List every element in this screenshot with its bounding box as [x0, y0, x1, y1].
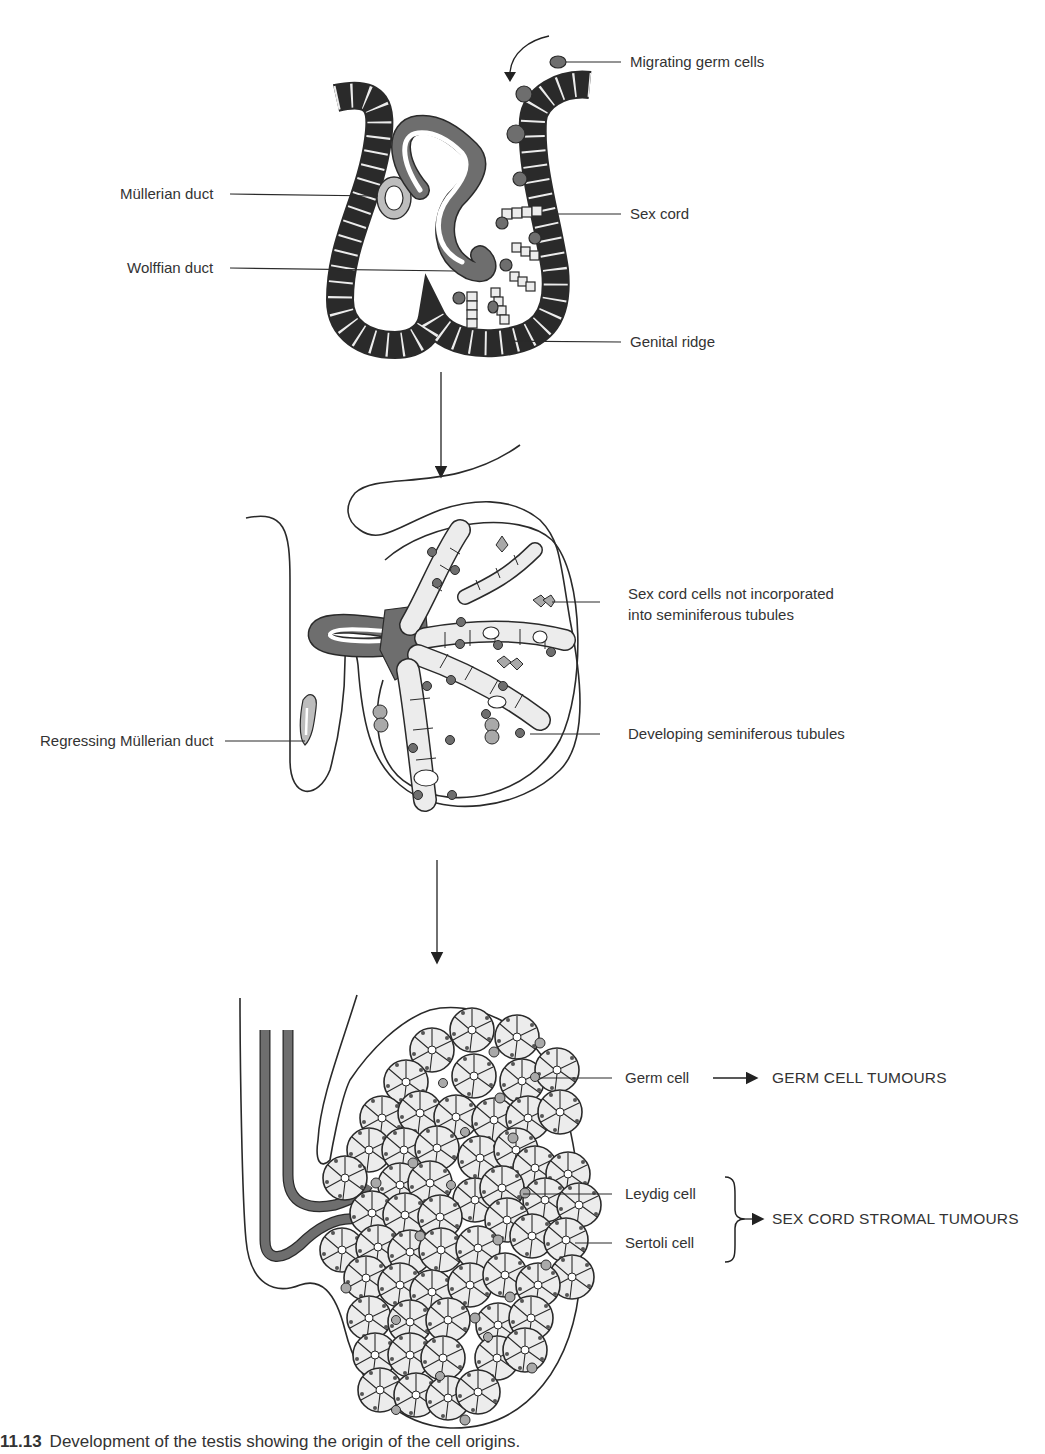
- label-mullerian-duct: Müllerian duct: [120, 185, 213, 203]
- label-migrating-germ-cells: Migrating germ cells: [630, 53, 764, 71]
- label-regressing-mullerian-duct: Regressing Müllerian duct: [40, 732, 213, 750]
- label-sex-cord-cells-line2: into seminiferous tubules: [628, 606, 794, 624]
- stage3-mature-testis: [240, 995, 758, 1428]
- figure-caption-text: Development of the testis showing the or…: [50, 1432, 521, 1451]
- label-sex-cord-stromal-tumours: SEX CORD STROMAL TUMOURS: [772, 1210, 1019, 1228]
- stage2-developing-testis: [225, 445, 600, 806]
- label-sex-cord: Sex cord: [630, 205, 689, 223]
- testis-development-diagram: [0, 0, 1045, 1454]
- label-sex-cord-cells-line1: Sex cord cells not incorporated: [628, 585, 834, 603]
- label-developing-tubules: Developing seminiferous tubules: [628, 725, 845, 743]
- stage1-genital-ridge: [230, 36, 621, 345]
- label-germ-cell: Germ cell: [625, 1069, 689, 1087]
- tubule-cross-sections: [320, 1008, 601, 1420]
- label-germ-cell-tumours: GERM CELL TUMOURS: [772, 1069, 947, 1087]
- figure-caption: 11.13Development of the testis showing t…: [0, 1432, 520, 1452]
- figure-number: 11.13: [0, 1432, 42, 1451]
- label-wolffian-duct: Wolffian duct: [127, 259, 213, 277]
- label-genital-ridge: Genital ridge: [630, 333, 715, 351]
- label-sertoli-cell: Sertoli cell: [625, 1234, 694, 1252]
- label-leydig-cell: Leydig cell: [625, 1185, 696, 1203]
